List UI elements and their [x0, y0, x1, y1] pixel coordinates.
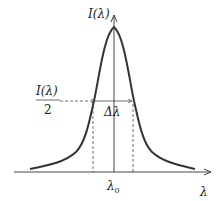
center-wavelength-label: λ0 — [107, 180, 120, 195]
diagram-canvas — [0, 0, 221, 201]
y-axis-label: I(λ) — [88, 8, 110, 20]
line-profile-diagram: I(λ) I(λ) 2 Δλ λ0 λ — [0, 0, 221, 201]
half-max-numerator: I(λ) — [36, 85, 58, 97]
intensity-curve — [30, 27, 195, 169]
width-label: Δλ — [104, 106, 120, 118]
half-max-denominator: 2 — [44, 104, 52, 116]
x-axis-label: λ — [200, 186, 208, 198]
